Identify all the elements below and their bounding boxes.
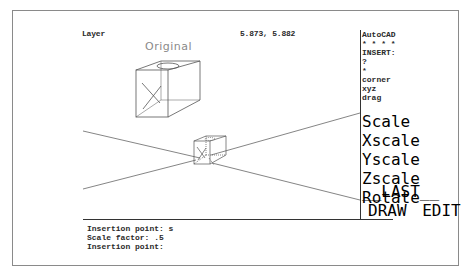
menu-item-corner[interactable]: corner <box>362 75 396 84</box>
screen-menu: AutoCAD * * * * INSERT: ? * corner xyz d… <box>362 30 396 102</box>
menu-item-scale[interactable]: Scale <box>362 112 410 131</box>
menu-item-insert[interactable]: INSERT: <box>362 48 396 57</box>
command-history-line: Insertion point: s <box>87 224 173 233</box>
original-label: Original <box>145 40 192 53</box>
menu-item-edit[interactable]: EDIT <box>416 201 461 220</box>
screen-menu-nav: __LAST__ DRAW EDIT <box>362 182 472 220</box>
menu-item-drag[interactable]: drag <box>362 93 396 102</box>
original-block-icon <box>136 61 200 117</box>
menu-item-last[interactable]: __LAST__ <box>362 182 439 201</box>
menu-item-asterisks[interactable]: * * * * <box>362 39 396 48</box>
menu-item-xyz[interactable]: xyz <box>362 84 396 93</box>
layer-status: Layer <box>82 29 105 38</box>
menu-item-autocad[interactable]: AutoCAD <box>362 30 396 39</box>
command-line[interactable]: Insertion point: s Scale factor: .5 Inse… <box>87 224 173 251</box>
command-history-line: Scale factor: .5 <box>87 233 173 242</box>
menu-item-yscale[interactable]: Yscale <box>362 150 420 169</box>
drag-lines <box>83 113 360 200</box>
inserted-block-icon <box>194 136 226 165</box>
coordinate-readout: 5.873, 5.882 <box>240 29 295 38</box>
menu-item-draw[interactable]: DRAW <box>362 201 407 220</box>
menu-item-query[interactable]: ? <box>362 57 396 66</box>
menu-item-xscale[interactable]: Xscale <box>362 131 420 150</box>
command-prompt[interactable]: Insertion point: <box>87 242 173 251</box>
menu-item-star[interactable]: * <box>362 66 396 75</box>
